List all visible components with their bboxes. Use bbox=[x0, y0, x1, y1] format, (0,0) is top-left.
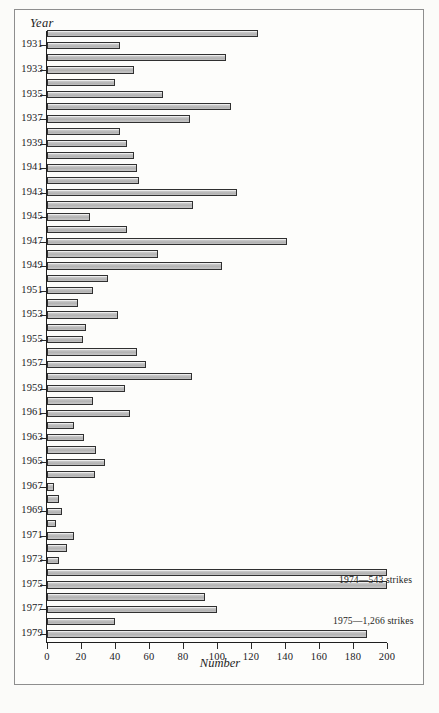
x-axis-tick bbox=[149, 643, 150, 649]
y-axis-tick-label: 1965 bbox=[21, 455, 43, 466]
bar bbox=[47, 189, 237, 196]
bar bbox=[47, 397, 93, 404]
bar bbox=[47, 115, 190, 122]
bar bbox=[47, 508, 62, 515]
figure: Year 19311933193519371939194119431945194… bbox=[0, 0, 439, 713]
bar bbox=[47, 361, 146, 368]
y-axis-tick-label: 1947 bbox=[21, 235, 43, 246]
y-axis-tick-label: 1955 bbox=[21, 333, 43, 344]
x-axis-tick bbox=[353, 643, 354, 649]
y-axis-tick-label: 1939 bbox=[21, 137, 43, 148]
bar bbox=[47, 287, 93, 294]
x-axis-tick bbox=[115, 643, 116, 649]
bar bbox=[47, 348, 137, 355]
bar bbox=[47, 238, 287, 245]
bar bbox=[47, 140, 127, 147]
bar bbox=[47, 569, 387, 576]
y-axis-tick-label: 1967 bbox=[21, 480, 43, 491]
x-axis-tick bbox=[387, 643, 388, 649]
y-axis-tick-label: 1963 bbox=[21, 431, 43, 442]
bar-annotation: 1974—543 strikes bbox=[339, 574, 412, 585]
bar bbox=[47, 495, 59, 502]
bar bbox=[47, 459, 105, 466]
y-axis-tick-label: 1945 bbox=[21, 210, 43, 221]
y-axis-tick-label: 1933 bbox=[21, 63, 43, 74]
bar bbox=[47, 164, 137, 171]
y-axis-tick-label: 1977 bbox=[21, 602, 43, 613]
bar bbox=[47, 324, 86, 331]
bar bbox=[47, 311, 118, 318]
bar bbox=[47, 422, 74, 429]
y-axis-tick-label: 1957 bbox=[21, 357, 43, 368]
y-axis-tick-label: 1935 bbox=[21, 88, 43, 99]
bar bbox=[47, 581, 387, 588]
bar bbox=[47, 79, 115, 86]
bar bbox=[47, 483, 54, 490]
bar bbox=[47, 128, 120, 135]
bar bbox=[47, 91, 163, 98]
bar bbox=[47, 532, 74, 539]
x-axis-tick bbox=[81, 643, 82, 649]
x-axis-tick bbox=[319, 643, 320, 649]
y-axis-tick-label: 1951 bbox=[21, 284, 43, 295]
bar bbox=[47, 373, 192, 380]
bar-annotation: 1975—1,266 strikes bbox=[333, 615, 414, 626]
bar bbox=[47, 336, 83, 343]
bar bbox=[47, 618, 115, 625]
y-axis-tick-label: 1949 bbox=[21, 259, 43, 270]
y-axis-tick-label: 1961 bbox=[21, 406, 43, 417]
bar bbox=[47, 630, 367, 637]
bar bbox=[47, 30, 258, 37]
bar bbox=[47, 201, 193, 208]
x-axis-tick bbox=[217, 643, 218, 649]
bar bbox=[47, 54, 226, 61]
bar bbox=[47, 471, 95, 478]
y-axis-tick-label: 1931 bbox=[21, 38, 43, 49]
bar bbox=[47, 42, 120, 49]
y-axis-tick-label: 1979 bbox=[21, 627, 43, 638]
bar bbox=[47, 593, 205, 600]
bar bbox=[47, 520, 56, 527]
bar bbox=[47, 606, 217, 613]
bar bbox=[47, 557, 59, 564]
bar bbox=[47, 385, 125, 392]
bar bbox=[47, 177, 139, 184]
bar bbox=[47, 446, 96, 453]
bar bbox=[47, 544, 67, 551]
x-axis-tick bbox=[183, 643, 184, 649]
bar bbox=[47, 103, 231, 110]
y-axis-tick-label: 1941 bbox=[21, 161, 43, 172]
y-axis-tick-label: 1937 bbox=[21, 112, 43, 123]
y-axis-tick-label: 1943 bbox=[21, 186, 43, 197]
bar bbox=[47, 275, 108, 282]
x-axis-tick bbox=[47, 643, 48, 649]
y-axis-tick-label: 1975 bbox=[21, 578, 43, 589]
bar bbox=[47, 250, 158, 257]
y-axis-tick-label: 1971 bbox=[21, 529, 43, 540]
bar bbox=[47, 262, 222, 269]
y-axis-tick-label: 1953 bbox=[21, 308, 43, 319]
bar bbox=[47, 410, 130, 417]
x-axis-tick bbox=[251, 643, 252, 649]
chart-frame: Year 19311933193519371939194119431945194… bbox=[14, 9, 424, 685]
y-axis-tick-label: 1969 bbox=[21, 504, 43, 515]
plot-area: Year 19311933193519371939194119431945194… bbox=[15, 10, 425, 686]
bar bbox=[47, 299, 78, 306]
bar bbox=[47, 66, 134, 73]
y-axis-tick-label: 1959 bbox=[21, 382, 43, 393]
x-axis-title: Number bbox=[15, 656, 425, 671]
bar bbox=[47, 213, 90, 220]
x-axis-tick bbox=[285, 643, 286, 649]
bar bbox=[47, 226, 127, 233]
bar bbox=[47, 152, 134, 159]
bar bbox=[47, 434, 84, 441]
y-axis-tick-label: 1973 bbox=[21, 553, 43, 564]
